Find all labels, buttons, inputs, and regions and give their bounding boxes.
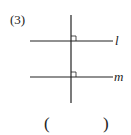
line-l-label: l	[115, 34, 119, 48]
line-m-label: m	[114, 70, 123, 84]
question-number: (3)	[10, 13, 25, 27]
answer-paren-close: )	[103, 117, 109, 131]
right-angle-mark-l	[71, 36, 76, 41]
answer-paren-open: (	[44, 117, 50, 131]
right-angle-mark-m	[71, 72, 76, 77]
